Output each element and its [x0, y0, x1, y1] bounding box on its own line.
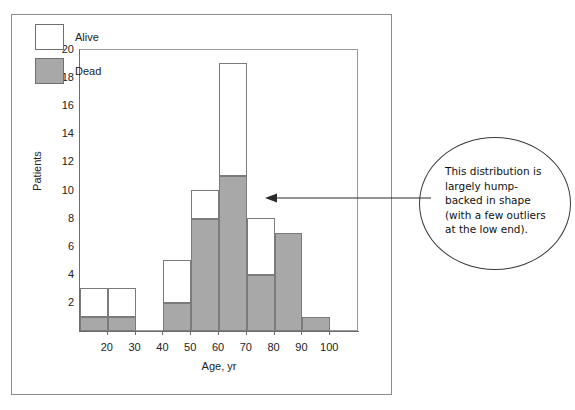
bar-segment-dead: [163, 303, 191, 331]
bar-segment-dead: [275, 233, 303, 331]
histogram-bar: [80, 289, 108, 331]
x-tick-mark: [218, 331, 219, 335]
bar-segment-alive: [80, 288, 108, 317]
y-tick-label: 10: [48, 185, 74, 196]
bar-segment-alive: [247, 218, 275, 275]
x-tick-label: 50: [184, 342, 196, 353]
x-tick-mark: [190, 331, 191, 335]
x-axis-ticks: 2030405060708090100: [79, 335, 359, 355]
bar-segment-dead: [80, 317, 108, 331]
x-axis-line: [79, 331, 359, 332]
x-tick-label: 100: [320, 342, 338, 353]
bar-segment-dead: [219, 176, 247, 331]
x-tick-label: 60: [212, 342, 224, 353]
legend-swatch-dead: [35, 58, 64, 84]
y-tick-label: 14: [48, 128, 74, 139]
bar-segment-alive: [191, 190, 219, 219]
x-tick-mark: [162, 331, 163, 335]
annotation-arrow-icon: [263, 190, 431, 206]
x-tick-label: 80: [267, 342, 279, 353]
legend-item-dead: Dead: [35, 58, 155, 92]
bar-segment-dead: [191, 219, 219, 331]
x-tick-mark: [107, 331, 108, 335]
x-tick-label: 40: [156, 342, 168, 353]
legend-label-dead: Dead: [75, 65, 101, 77]
histogram-bar: [302, 317, 330, 331]
x-tick-label: 70: [240, 342, 252, 353]
x-tick-label: 90: [295, 342, 307, 353]
y-tick-label: 6: [48, 241, 74, 252]
x-tick-mark: [301, 331, 302, 335]
bar-segment-dead: [247, 275, 275, 331]
x-tick-mark: [135, 331, 136, 335]
y-tick-label: 16: [48, 100, 74, 111]
y-tick-label: 2: [48, 297, 74, 308]
bar-segment-dead: [302, 317, 330, 331]
histogram-bar: [275, 233, 303, 331]
legend-label-alive: Alive: [75, 31, 99, 43]
x-tick-mark: [246, 331, 247, 335]
x-tick-label: 20: [101, 342, 113, 353]
x-tick-label: 30: [128, 342, 140, 353]
bar-segment-alive: [108, 288, 136, 317]
x-tick-mark: [274, 331, 275, 335]
chart-legend: Alive Dead: [35, 24, 155, 92]
x-tick-mark: [329, 331, 330, 335]
histogram-bar: [247, 219, 275, 331]
legend-swatch-alive: [35, 24, 64, 50]
y-tick-label: 8: [48, 213, 74, 224]
bar-segment-alive: [219, 63, 247, 176]
histogram-bar: [163, 261, 191, 331]
annotation-callout: This distribution is largely hump-backed…: [419, 137, 571, 270]
y-axis-title: Patients: [31, 126, 43, 216]
x-axis-title: Age, yr: [79, 360, 359, 372]
legend-item-alive: Alive: [35, 24, 155, 58]
y-tick-label: 12: [48, 156, 74, 167]
histogram-bar: [108, 289, 136, 331]
y-tick-label: 4: [48, 269, 74, 280]
histogram-bar: [191, 191, 219, 332]
annotation-text: This distribution is largely hump-backed…: [445, 164, 555, 237]
bar-segment-alive: [163, 260, 191, 303]
bar-segment-dead: [108, 317, 136, 331]
histogram-bar: [219, 64, 247, 331]
